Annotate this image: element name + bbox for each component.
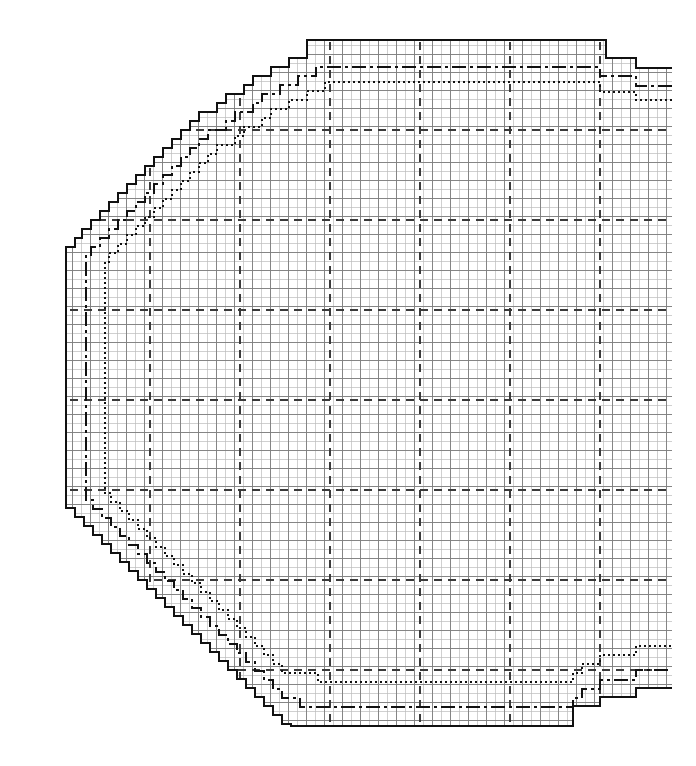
pattern-chart-canvas: Upper Sleeve Chart (0, 0, 696, 766)
pattern-chart-svg (0, 0, 696, 766)
